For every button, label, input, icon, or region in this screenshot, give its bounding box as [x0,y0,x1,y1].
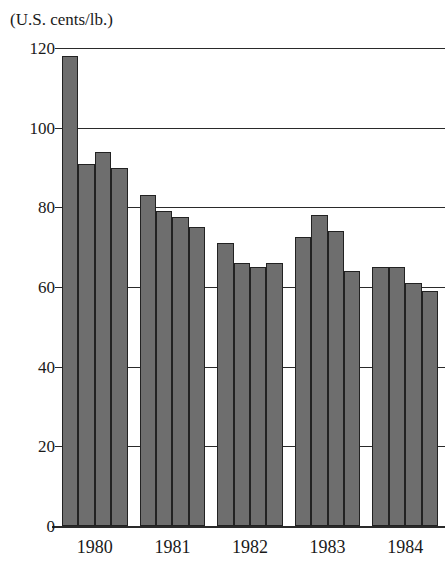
bar [405,283,421,526]
bar [156,211,172,526]
gridline-100 [55,128,445,129]
gridline-0 [52,526,445,528]
bar [295,237,311,526]
bar [111,168,127,527]
bar [344,271,360,526]
bar [422,291,438,526]
bar [189,227,205,526]
bar [62,56,78,526]
bar [95,152,111,526]
x-axis-group-label-1981: 1981 [140,538,206,556]
cropped-caption [0,556,447,570]
y-axis-tick-label: 60 [38,279,55,296]
bar [78,164,94,526]
y-axis-tick-label: 40 [38,359,55,376]
y-axis-tick-label: 120 [30,40,56,57]
bar [217,243,233,526]
bar [172,217,188,526]
bar [328,231,344,526]
bar [266,263,282,526]
y-axis-tick-label: 20 [38,438,55,455]
x-axis-group-label-1980: 1980 [62,538,128,556]
bar [234,263,250,526]
bar [311,215,327,526]
y-axis-tick-label: 100 [30,120,56,137]
gridline-120 [55,48,445,49]
y-axis-tick-label: 0 [47,518,56,535]
x-axis-group-label-1984: 1984 [372,538,438,556]
bar [372,267,388,526]
bar [389,267,405,526]
bar [140,195,156,526]
bar [250,267,266,526]
plot-area: 02040608010012019801981198219831984 [0,0,447,545]
x-axis-group-label-1982: 1982 [217,538,283,556]
y-axis-tick-label: 80 [38,199,55,216]
x-axis-group-label-1983: 1983 [295,538,361,556]
chart-figure: (U.S. cents/lb.) 02040608010012019801981… [0,0,447,570]
